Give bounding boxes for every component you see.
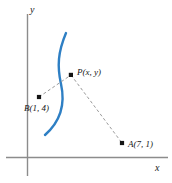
- point-label-a: A(7, 1): [128, 140, 153, 149]
- x-axis-label: x: [155, 163, 159, 173]
- point-dot-p: [69, 73, 73, 77]
- diagram-canvas: [0, 0, 172, 183]
- point-dot-a: [120, 141, 124, 145]
- point-label-b: B(1, 4): [24, 104, 49, 113]
- y-axis-label: y: [30, 5, 34, 15]
- hyperbola-curve: [45, 33, 66, 135]
- connector-p-to-a: [71, 75, 122, 143]
- coordinate-diagram: y x P(x, y) B(1, 4) A(7, 1): [0, 0, 172, 183]
- point-dot-b: [37, 95, 41, 99]
- point-label-p: P(x, y): [77, 68, 101, 77]
- connector-b-to-p: [39, 75, 71, 97]
